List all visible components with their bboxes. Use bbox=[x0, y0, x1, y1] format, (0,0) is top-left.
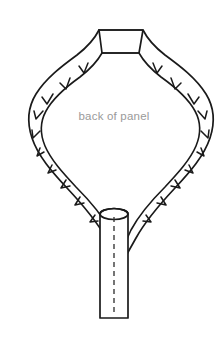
pattern-illustration: back of panel bbox=[0, 0, 224, 346]
seam-notch-marks-right bbox=[143, 63, 209, 222]
cylinder-stick bbox=[100, 209, 128, 319]
pattern-diagram-canvas: back of panel bbox=[0, 0, 224, 346]
panel-label-text: back of panel bbox=[78, 110, 149, 122]
trapezoid-neck bbox=[99, 30, 143, 53]
